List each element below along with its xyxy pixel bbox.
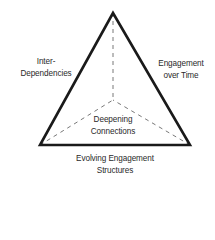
label-line: Deepening [83,113,143,125]
label-line: Engagement [150,57,212,69]
label-deepening-connections: Deepening Connections [83,113,143,137]
label-inter-dependencies: Inter- Dependencies [15,55,77,79]
label-line: Inter- [15,55,77,67]
label-line: Evolving Engagement [63,152,166,164]
label-evolving-engagement-structures: Evolving Engagement Structures [63,152,166,176]
label-line: Connections [83,125,143,137]
label-line: Dependencies [15,67,77,79]
label-line: Structures [63,164,166,176]
label-line: over Time [150,69,212,81]
label-engagement-over-time: Engagement over Time [150,57,212,81]
